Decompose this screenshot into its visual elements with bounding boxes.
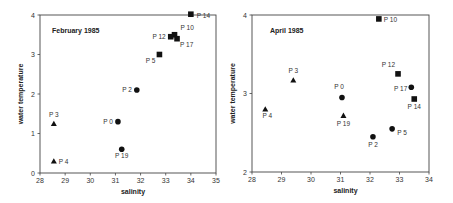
point-label: P 12 (382, 61, 396, 68)
x-tick-label: 34 (425, 176, 433, 183)
point-label: P 10 (181, 24, 195, 31)
triangle-marker (340, 112, 346, 117)
x-axis-title: salinity (121, 188, 145, 196)
y-axis-title: water temperature (17, 64, 25, 126)
chart-title: April 1985 (270, 27, 304, 35)
plot-frame (252, 15, 429, 172)
x-tick-label: 31 (337, 176, 345, 183)
scatter-charts: 282930313233343501234salinitywater tempe… (0, 0, 453, 203)
triangle-marker (262, 106, 268, 111)
x-tick-label: 29 (61, 177, 69, 184)
square-marker (395, 71, 401, 77)
point-label: P 17 (394, 85, 408, 92)
triangle-marker (51, 121, 57, 126)
square-marker (188, 11, 194, 17)
x-tick-label: 28 (248, 176, 256, 183)
point-label: P 5 (397, 129, 407, 136)
circle-marker (119, 147, 125, 153)
x-axis-title: salinity (333, 187, 357, 195)
circle-marker (134, 87, 140, 93)
circle-marker (339, 95, 345, 101)
y-tick-label: 3 (243, 90, 247, 97)
circle-marker (409, 84, 415, 90)
y-tick-label: 0 (31, 170, 35, 177)
x-tick-label: 28 (36, 177, 44, 184)
y-axis-title: water temperature (229, 63, 237, 125)
square-marker (411, 96, 417, 102)
point-label: P 4 (59, 158, 69, 165)
point-label: P 19 (337, 120, 351, 127)
y-tick-label: 2 (31, 91, 35, 98)
x-tick-label: 32 (137, 177, 145, 184)
point-label: P 19 (115, 152, 129, 159)
x-tick-label: 30 (307, 176, 315, 183)
point-label: P 14 (197, 12, 211, 19)
x-tick-label: 34 (187, 177, 195, 184)
x-tick-label: 29 (278, 176, 286, 183)
x-tick-label: 33 (162, 177, 170, 184)
point-label: P 0 (103, 118, 113, 125)
point-label: P 5 (146, 57, 156, 64)
y-tick-label: 3 (31, 51, 35, 58)
point-label: P 14 (408, 103, 422, 110)
square-marker (168, 34, 174, 40)
april-chart: 28293031323334234salinitywater temperatu… (229, 12, 433, 196)
x-tick-label: 33 (396, 176, 404, 183)
x-tick-label: 30 (86, 177, 94, 184)
point-label: P 2 (122, 86, 132, 93)
triangle-marker (290, 77, 296, 82)
point-label: P 10 (384, 16, 398, 23)
square-marker (174, 36, 180, 42)
point-label: P 12 (152, 33, 166, 40)
x-tick-label: 31 (112, 177, 120, 184)
y-tick-label: 1 (31, 130, 35, 137)
circle-marker (115, 119, 121, 125)
february-chart: 282930313233343501234salinitywater tempe… (17, 11, 220, 196)
plot-frame (40, 15, 216, 173)
circle-marker (389, 126, 395, 132)
triangle-marker (51, 158, 57, 163)
y-tick-label: 2 (243, 169, 247, 176)
chart-title: February 1985 (52, 27, 100, 35)
x-tick-label: 35 (212, 177, 220, 184)
point-label: P 4 (262, 112, 272, 119)
point-label: P 3 (49, 111, 59, 118)
point-label: P 2 (368, 141, 378, 148)
x-tick-label: 32 (366, 176, 374, 183)
y-tick-label: 4 (31, 12, 35, 19)
square-marker (157, 52, 163, 58)
point-label: P 0 (334, 83, 344, 90)
y-tick-label: 4 (243, 12, 247, 19)
point-label: P 3 (288, 67, 298, 74)
point-label: P 17 (180, 41, 194, 48)
circle-marker (370, 134, 376, 140)
square-marker (376, 16, 382, 22)
